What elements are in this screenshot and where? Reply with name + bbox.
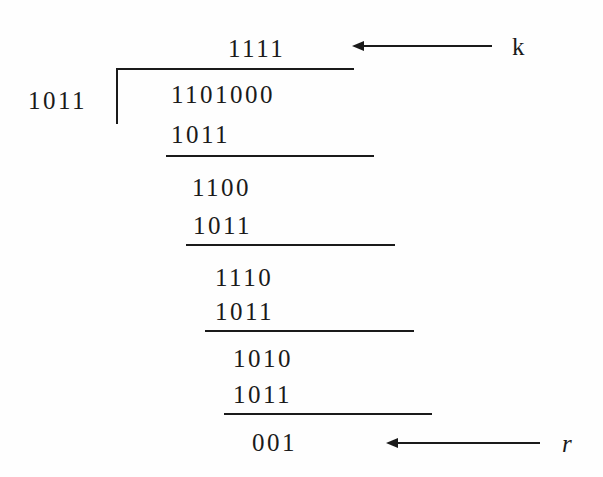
remainder-label: r [562,431,572,456]
division-lines [0,0,603,477]
subtrahend-2: 1011 [193,213,252,238]
subtrahend-4: 1011 [233,382,292,407]
dividend-value: 1101000 [171,82,275,107]
divisor-value: 1011 [28,88,87,113]
result-2: 1110 [215,265,273,290]
quotient-label: k [512,34,525,59]
arrow-left-icon [352,41,492,51]
result-3: 1010 [233,346,293,371]
remainder-value: 001 [252,430,297,455]
subtrahend-3: 1011 [215,299,274,324]
result-1: 1100 [192,175,251,200]
quotient-value: 1111 [228,36,285,61]
arrow-left-icon [386,438,540,448]
subtrahend-1: 1011 [171,122,230,147]
long-division-diagram: 1111 k 1011 1101000 1011 1100 1011 1110 … [0,0,603,477]
